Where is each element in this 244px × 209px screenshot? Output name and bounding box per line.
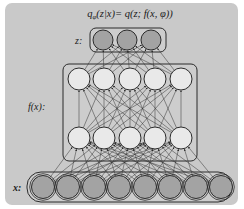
hidden-upper-node-1 (68, 68, 90, 90)
z-node-2 (117, 30, 137, 50)
encoder-network-diagram: qφ(z|x)= q(z; f(x, φ)) z: f(x): x: (0, 0, 244, 209)
hidden-upper-node-3 (119, 68, 141, 90)
fx-label: f(x): (28, 101, 45, 113)
hidden-upper-node-5 (170, 68, 192, 90)
x-node-6 (159, 176, 182, 199)
x-node-3 (83, 176, 106, 199)
x-node-5 (134, 176, 157, 199)
hidden-lower-node-3 (119, 127, 141, 149)
hidden-upper-node-2 (93, 68, 115, 90)
z-node-3 (141, 30, 161, 50)
x-node-8 (210, 176, 233, 199)
hidden-upper-node-4 (144, 68, 166, 90)
title-rest: (z|x)= q(z; f(x, φ)) (96, 8, 173, 20)
x-node-1 (32, 176, 55, 199)
x-node-4 (108, 176, 131, 199)
z-label: z: (74, 35, 82, 46)
hidden-lower-node-4 (144, 127, 166, 149)
hidden-lower-node-5 (170, 127, 192, 149)
z-node-1 (93, 30, 113, 50)
x-node-2 (57, 176, 80, 199)
hidden-lower-node-2 (93, 127, 115, 149)
x-node-7 (185, 176, 208, 199)
hidden-lower-node-1 (68, 127, 90, 149)
x-label: x: (12, 182, 21, 193)
